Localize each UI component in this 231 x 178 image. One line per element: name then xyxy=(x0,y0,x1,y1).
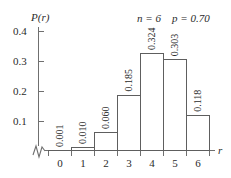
bar-value-label-r4: 0.324 xyxy=(146,28,157,51)
x-tick-label: 4 xyxy=(149,157,155,169)
chart-canvas: P(r) n = 6 p = 0.70 r 0.4 0.3 0.2 0.1 xyxy=(0,0,231,178)
axis-break-icon xyxy=(33,146,45,157)
bar-r4 xyxy=(141,53,164,150)
bars-group xyxy=(49,53,210,150)
x-axis-ticks: 0 1 2 3 4 5 6 xyxy=(49,151,210,170)
bar-r5 xyxy=(164,60,187,151)
x-tick-label: 5 xyxy=(172,157,178,169)
bar-value-label-r5: 0.303 xyxy=(169,34,180,57)
bar-value-label-r6: 0.118 xyxy=(192,90,203,112)
binomial-distribution-chart: P(r) n = 6 p = 0.70 r 0.4 0.3 0.2 0.1 xyxy=(0,0,231,178)
y-tick-label: 0.3 xyxy=(13,55,27,67)
bar-r1 xyxy=(72,148,95,151)
x-axis-title: r xyxy=(218,144,223,156)
bar-value-label-r2: 0.060 xyxy=(100,107,111,130)
x-tick-label: 2 xyxy=(103,157,109,169)
y-tick-label: 0.1 xyxy=(13,115,27,127)
y-tick-label: 0.2 xyxy=(13,85,27,97)
x-tick-label: 3 xyxy=(126,157,132,169)
bar-value-label-r3: 0.185 xyxy=(123,69,134,92)
p-parameter-label: p = 0.70 xyxy=(171,12,210,24)
bar-r3 xyxy=(118,95,141,151)
y-tick-label: 0.4 xyxy=(13,25,27,37)
bar-r6 xyxy=(187,115,210,150)
n-parameter-label: n = 6 xyxy=(137,12,161,24)
x-tick-label: 6 xyxy=(195,157,201,169)
bar-r2 xyxy=(95,133,118,151)
x-tick-label: 1 xyxy=(80,157,86,169)
x-tick-label: 0 xyxy=(57,157,63,169)
bar-value-label-r0: 0.001 xyxy=(54,125,65,148)
bar-value-label-r1: 0.010 xyxy=(77,122,88,145)
y-axis-title: P(r) xyxy=(30,11,50,24)
